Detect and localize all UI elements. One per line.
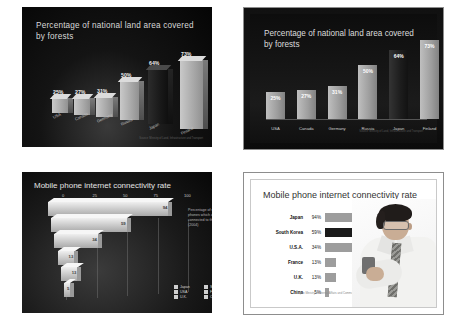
panel2-category-germany: Germany [322,126,353,131]
panel3-legend-item-china: China [204,295,212,299]
panel3-legend-item-uk: U.K. [174,295,201,299]
legend-swatch [174,285,178,289]
panel1-value-russia: 50% [121,72,131,78]
panel3-gridline [158,218,159,294]
legend-label: China [210,295,212,299]
panel1-value-finland: 73% [181,51,191,57]
panel1-bar-finland [180,60,204,129]
panel2-baseline [266,119,427,120]
panel2-category-usa: USA [260,126,291,131]
legend-swatch [204,295,208,299]
panel1-value-usa: 25% [53,89,63,95]
panel2-category-canada: Canada [291,126,322,131]
panel4-value: 13% [303,275,325,280]
slide-forest-flat[interactable]: Percentage of national land area covered… [243,7,444,150]
panel2-inner: Percentage of national land area covered… [250,14,437,143]
panel2-bar-finland: 73%Finland [420,40,439,119]
legend-label: USA [180,290,187,294]
photo-hand [366,267,384,281]
panel2-value-finland: 73% [420,43,439,49]
panel4-category: France [259,260,303,265]
panel3-bar-china: 5 [64,283,70,297]
panel1-bar-usa [52,98,69,114]
panel2-value-germany: 31% [328,89,347,95]
panel3-gridline [188,220,189,292]
panel4-category: South Korea [259,230,303,235]
panel3-note: Percentage of mobile phones which are co… [188,208,212,228]
panel2-bar-canada: 27%Canada [297,90,316,119]
panel3-legend-item-skorea: S. Korea [204,285,212,289]
panel1-bar-japan [148,69,169,124]
panel4-value: 34% [303,245,325,250]
panel3-value-skorea: 59 [121,221,126,226]
panel3-legend-item-usa: USA [174,290,201,294]
legend-swatch [174,290,178,294]
panel4-category: Japan [259,215,303,220]
panel2-bar-usa: 25%USA [266,92,285,119]
legend-swatch [204,290,208,294]
legend-label: S. Korea [210,285,212,289]
panel1-bar-russia [120,81,140,120]
panel1-value-japan: 64% [149,60,159,66]
panel4-bar [325,243,353,252]
panel3-value-usa: 34 [92,237,97,242]
panel1-value-germany: 31% [97,88,107,94]
panel2-bar-germany: 31%Germany [328,86,347,119]
slide-mobile-flat[interactable]: Mobile phone internet connectivity rate … [243,172,444,315]
panel4-value: 59% [303,230,325,235]
panel3-tick-100: 100 [184,193,191,198]
panel4-bar [325,258,336,267]
panel3-legend-item-france: France [204,290,212,294]
panel4-bar [325,273,336,282]
panel4-value: 94% [303,215,325,220]
legend-label: U.K. [180,295,187,299]
panel4-category: U.S.A. [259,245,303,250]
slide-forest-3d[interactable]: Percentage of national land area covered… [22,7,212,147]
photo-glasses [383,221,409,230]
panel3-value-uk: 13 [72,270,77,275]
panel1-source: Source: Ministry of Land, Infrastructure… [139,137,203,140]
legend-label: France [210,290,212,294]
legend-swatch [174,295,178,299]
panel3-legend: JapanS. KoreaUSAFranceU.K.China [174,285,212,299]
panel4-inner: Mobile phone internet connectivity rate … [250,179,437,308]
panel4-value: 13% [303,260,325,265]
panel1-bars: 25%USA27%Canada31%Germany50%Russia64%Jap… [22,7,212,147]
panel2-value-russia: 50% [358,68,377,74]
businessman-photo [352,199,436,307]
panel2-value-canada: 27% [297,93,316,99]
legend-label: Japan [180,285,190,289]
panel2-value-japan: 64% [389,53,408,59]
legend-swatch [204,285,208,289]
panel3-value-france: 13 [69,254,74,259]
panel2-bar-japan: 64%Japan [389,50,408,119]
panel3-value-japan: 94 [163,205,168,210]
panel3-legend-item-japan: Japan [174,285,201,289]
panel3-title: Mobile phone internet connectivity rate [34,181,171,190]
slide-grid: Percentage of national land area covered… [0,0,457,325]
panel2-value-usa: 25% [266,95,285,101]
panel2-plot: 25%USA27%Canada31%Germany50%Russia64%Jap… [266,33,427,119]
panel1-value-canada: 27% [75,89,85,95]
panel2-bar-russia: 50%Russia [358,65,377,119]
slide-mobile-3d[interactable]: Mobile phone internet connectivity rate … [22,172,212,313]
panel2-source: Source: Ministry of Land, Infrastructure… [359,130,423,133]
panel3-value-china: 5 [67,286,69,291]
panel4-category: U.K. [259,275,303,280]
